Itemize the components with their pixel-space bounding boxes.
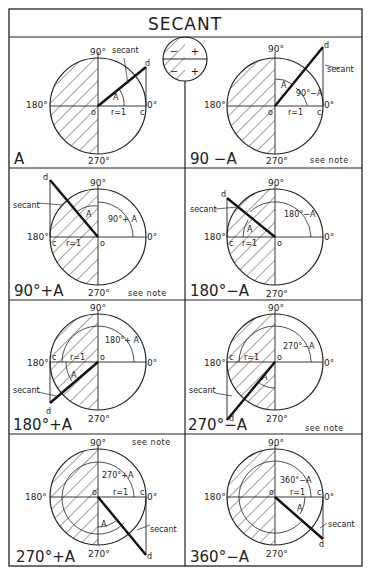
panel-label: 270°+A xyxy=(16,548,76,566)
svg-text:180°: 180° xyxy=(204,492,226,502)
svg-text:180°: 180° xyxy=(27,358,49,368)
svg-text:r=1: r=1 xyxy=(66,239,81,248)
svg-text:A: A xyxy=(101,520,107,529)
panel-label: 180°−A xyxy=(190,282,250,300)
svg-text:o: o xyxy=(92,488,97,497)
svg-text:0°: 0° xyxy=(147,100,157,110)
svg-text:270°: 270° xyxy=(266,414,288,424)
svg-text:0°: 0° xyxy=(147,232,157,242)
svg-text:c: c xyxy=(140,488,144,497)
panel-90-minus-A: 90° d secant A 90°−A 180° o r=1 c 0° 270… xyxy=(190,41,354,168)
svg-text:r=1: r=1 xyxy=(290,488,305,497)
panel-label: A xyxy=(14,150,25,168)
svg-text:A: A xyxy=(281,81,287,90)
svg-text:270°: 270° xyxy=(88,414,110,424)
svg-text:o: o xyxy=(100,353,105,362)
svg-text:90°: 90° xyxy=(268,303,284,313)
svg-text:0°: 0° xyxy=(324,492,334,502)
svg-text:o: o xyxy=(277,239,282,248)
svg-text:90°: 90° xyxy=(268,178,284,188)
see-note: see note xyxy=(132,438,171,447)
panel-label: 360°−A xyxy=(190,548,250,566)
svg-text:d: d xyxy=(221,190,226,199)
svg-text:d: d xyxy=(229,414,234,423)
secant-label: secant xyxy=(189,386,216,395)
svg-text:0°: 0° xyxy=(147,358,157,368)
svg-text:A: A xyxy=(86,210,92,219)
svg-text:o: o xyxy=(91,108,96,117)
svg-text:A: A xyxy=(247,225,253,234)
svg-text:90°: 90° xyxy=(90,178,106,188)
svg-text:c: c xyxy=(317,108,321,117)
svg-text:270°: 270° xyxy=(88,156,110,166)
arc-label: 90°−A xyxy=(296,89,323,98)
svg-text:270°: 270° xyxy=(266,156,288,166)
svg-text:r=1: r=1 xyxy=(113,488,128,497)
sign-legend: − − + + xyxy=(163,37,207,81)
sign-positive: + xyxy=(191,66,199,77)
svg-text:d: d xyxy=(145,59,150,68)
secant-line xyxy=(98,67,146,106)
panel-label: 90 −A xyxy=(190,150,237,168)
panel-label: 180°+A xyxy=(13,416,73,434)
svg-text:90°: 90° xyxy=(268,438,284,448)
arc-label: 180°−A xyxy=(284,210,316,219)
svg-text:180°: 180° xyxy=(25,492,47,502)
page-title: SECANT xyxy=(148,14,222,34)
sign-negative: − xyxy=(170,66,178,77)
svg-text:c: c xyxy=(229,239,233,248)
svg-text:r=1: r=1 xyxy=(244,353,259,362)
panel-label: 90°+A xyxy=(14,282,64,300)
svg-text:c: c xyxy=(229,353,233,362)
panel-180-plus-A: 90° 180°+ A 180° c r=1 o 0° A secant d 2… xyxy=(13,303,157,434)
svg-text:r=1: r=1 xyxy=(242,239,257,248)
arc-label: 90°+ A xyxy=(108,215,137,224)
secant-diagram: SECANT − − + + 90° secant d A 180° o r=1… xyxy=(0,0,370,571)
panel-270-plus-A: 90° see note 270°+A 180° o r=1 c 0° A se… xyxy=(16,438,177,566)
secant-label: secant xyxy=(328,520,355,529)
svg-text:270°: 270° xyxy=(266,549,288,559)
svg-text:r=1: r=1 xyxy=(288,108,303,117)
svg-text:d: d xyxy=(319,540,324,549)
svg-text:d: d xyxy=(43,173,48,182)
svg-text:o: o xyxy=(100,239,105,248)
arc-label: 360°−A xyxy=(280,476,312,485)
svg-text:c: c xyxy=(52,353,56,362)
svg-text:d: d xyxy=(147,552,152,561)
sign-positive: + xyxy=(191,46,199,57)
svg-text:90°: 90° xyxy=(268,44,284,54)
arc-label: 270°+A xyxy=(102,471,134,480)
svg-text:180°: 180° xyxy=(26,100,48,110)
svg-text:d: d xyxy=(46,407,51,416)
secant-label: secant xyxy=(112,46,139,55)
svg-text:A: A xyxy=(113,93,119,102)
panel-360-minus-A: 90° 360°−A 180° o r=1 c 0° A secant d 27… xyxy=(190,438,355,566)
svg-text:180°: 180° xyxy=(204,232,226,242)
svg-text:c: c xyxy=(52,239,56,248)
svg-text:o: o xyxy=(269,488,274,497)
secant-label: secant xyxy=(327,65,354,74)
svg-text:0°: 0° xyxy=(324,358,334,368)
secant-label: secant xyxy=(190,205,217,214)
secant-label: secant xyxy=(13,386,40,395)
panel-270-minus-A: 90° 270°−A 180° c r=1 o 0° A secant 270°… xyxy=(188,303,344,434)
svg-text:270°: 270° xyxy=(88,549,110,559)
secant-label: secant xyxy=(13,201,40,210)
svg-text:c: c xyxy=(317,488,321,497)
sign-negative: − xyxy=(170,46,178,57)
svg-text:270°: 270° xyxy=(266,289,288,299)
svg-text:c: c xyxy=(140,108,144,117)
svg-text:90°: 90° xyxy=(90,438,106,448)
svg-text:o: o xyxy=(277,353,282,362)
see-note: see note xyxy=(305,424,344,433)
panel-180-minus-A: d 90° secant 180°−A A 180° c r=1 o 0° 27… xyxy=(190,178,334,300)
secant-label: secant xyxy=(150,525,177,534)
panel-A: 90° secant d A 180° o r=1 c 0° 270° A xyxy=(14,46,157,168)
svg-text:0°: 0° xyxy=(324,100,334,110)
panel-90-plus-A: d 90° secant A 90°+ A 180° c r=1 o 0° 27… xyxy=(13,173,167,300)
svg-text:270°: 270° xyxy=(88,288,110,298)
arc-label: 180°+ A xyxy=(105,336,140,345)
see-note: see note xyxy=(128,289,167,298)
svg-text:0°: 0° xyxy=(147,492,157,502)
svg-text:180°: 180° xyxy=(27,232,49,242)
